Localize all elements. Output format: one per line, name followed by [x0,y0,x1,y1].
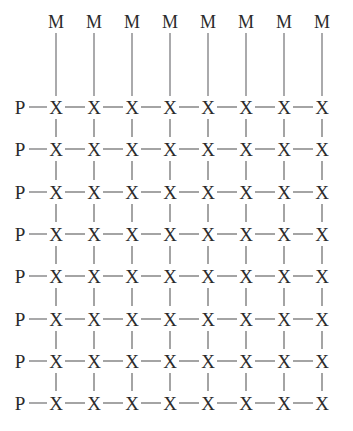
node-label-r5-c3: X [125,267,139,286]
node-label-r4-c8: X [315,224,329,243]
node-label-r8-c4: X [163,394,177,413]
node-label-r2-c6: X [239,140,253,159]
bond-node-to-node-horizontal [65,276,85,277]
node-label-r7-c3: X [125,351,139,370]
bond-node-to-node-horizontal [103,360,123,361]
bond-node-to-node-vertical [170,204,171,222]
bond-node-to-node-horizontal [103,276,123,277]
bond-node-to-node-horizontal [141,233,161,234]
node-label-r3-c5: X [201,182,215,201]
node-label-r5-c5: X [201,267,215,286]
bond-node-to-node-vertical [94,119,95,137]
bond-node-to-node-vertical [94,246,95,264]
node-label-r6-c6: X [239,309,253,328]
node-label-r4-c4: X [163,224,177,243]
bond-node-to-node-horizontal [65,403,85,404]
bond-metal-to-node-vertical [132,33,133,96]
bond-node-to-node-horizontal [179,360,199,361]
bond-ligand-to-node-horizontal [29,107,47,108]
bond-node-to-node-vertical [94,288,95,306]
node-label-r8-c2: X [87,394,101,413]
node-label-r1-c6: X [239,98,253,117]
node-label-r3-c8: X [315,182,329,201]
bond-node-to-node-vertical [132,373,133,391]
bond-node-to-node-vertical [56,373,57,391]
metal-label-4: M [162,13,178,31]
metal-label-5: M [200,13,216,31]
bond-node-to-node-horizontal [293,107,313,108]
bond-node-to-node-horizontal [255,276,275,277]
bond-node-to-node-horizontal [65,360,85,361]
node-label-r8-c3: X [125,394,139,413]
node-label-r3-c7: X [277,182,291,201]
node-label-r1-c3: X [125,98,139,117]
node-label-r7-c2: X [87,351,101,370]
metal-label-7: M [276,13,292,31]
bond-node-to-node-horizontal [179,191,199,192]
bond-node-to-node-horizontal [217,403,237,404]
bond-node-to-node-horizontal [103,403,123,404]
node-label-r4-c6: X [239,224,253,243]
bond-node-to-node-horizontal [179,233,199,234]
bond-node-to-node-horizontal [65,233,85,234]
bond-node-to-node-vertical [322,331,323,349]
bond-node-to-node-horizontal [65,107,85,108]
bond-node-to-node-vertical [284,288,285,306]
node-label-r8-c7: X [277,394,291,413]
ligand-label-row-7: P [15,351,26,370]
node-label-r1-c8: X [315,98,329,117]
bond-node-to-node-vertical [284,246,285,264]
node-label-r4-c3: X [125,224,139,243]
bond-node-to-node-vertical [56,119,57,137]
bond-node-to-node-horizontal [179,107,199,108]
bond-metal-to-node-vertical [284,33,285,96]
node-label-r4-c1: X [49,224,63,243]
bond-node-to-node-vertical [94,204,95,222]
bond-node-to-node-vertical [322,119,323,137]
bond-node-to-node-horizontal [255,318,275,319]
node-label-r3-c3: X [125,182,139,201]
node-label-r2-c5: X [201,140,215,159]
bond-node-to-node-horizontal [141,107,161,108]
bond-metal-to-node-vertical [246,33,247,96]
bond-node-to-node-horizontal [103,107,123,108]
node-label-r1-c1: X [49,98,63,117]
bond-node-to-node-vertical [170,331,171,349]
node-label-r6-c7: X [277,309,291,328]
bond-metal-to-node-vertical [56,33,57,96]
node-label-r8-c8: X [315,394,329,413]
bond-node-to-node-vertical [246,331,247,349]
bond-node-to-node-vertical [56,288,57,306]
bond-node-to-node-vertical [246,204,247,222]
node-label-r2-c8: X [315,140,329,159]
bond-node-to-node-horizontal [141,191,161,192]
bond-node-to-node-vertical [56,246,57,264]
ligand-label-row-6: P [15,309,26,328]
node-label-r1-c7: X [277,98,291,117]
bond-ligand-to-node-horizontal [29,233,47,234]
bond-node-to-node-horizontal [217,276,237,277]
bond-node-to-node-horizontal [103,233,123,234]
node-label-r1-c2: X [87,98,101,117]
bond-metal-to-node-vertical [208,33,209,96]
bond-node-to-node-vertical [208,204,209,222]
bond-node-to-node-vertical [284,331,285,349]
node-label-r7-c6: X [239,351,253,370]
node-label-r3-c1: X [49,182,63,201]
node-label-r6-c8: X [315,309,329,328]
bond-ligand-to-node-horizontal [29,276,47,277]
bond-node-to-node-vertical [246,119,247,137]
bond-metal-to-node-vertical [94,33,95,96]
bond-node-to-node-vertical [94,373,95,391]
bond-node-to-node-vertical [132,331,133,349]
bond-node-to-node-vertical [208,288,209,306]
bond-node-to-node-vertical [170,288,171,306]
node-label-r2-c2: X [87,140,101,159]
node-label-r4-c7: X [277,224,291,243]
metal-label-8: M [314,13,330,31]
bond-node-to-node-horizontal [217,191,237,192]
bond-node-to-node-vertical [284,373,285,391]
bond-node-to-node-vertical [170,373,171,391]
bond-node-to-node-vertical [246,246,247,264]
bond-node-to-node-horizontal [217,233,237,234]
